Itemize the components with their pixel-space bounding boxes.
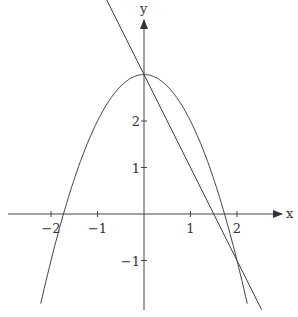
curves xyxy=(41,0,262,310)
y-tick-label: −1 xyxy=(121,254,140,269)
x-tick-label: −1 xyxy=(88,221,107,236)
x-tick-label: 1 xyxy=(186,221,194,236)
y-axis-label: y xyxy=(139,1,148,16)
y-tick-label: 2 xyxy=(132,114,140,129)
chart: −2−112−112 x y xyxy=(0,0,298,317)
y-tick-label: 1 xyxy=(132,161,140,176)
x-axis-label: x xyxy=(286,206,294,221)
x-tick-label: 2 xyxy=(233,221,241,236)
plot-area: −2−112−112 x y xyxy=(0,0,298,317)
